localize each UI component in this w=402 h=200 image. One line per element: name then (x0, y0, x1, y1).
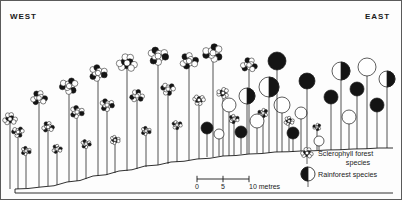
sclerophyll-crown-lobe (201, 98, 205, 102)
sclerophyll-tree (240, 58, 257, 154)
legend-label-sclerophyll: Sclerophyll forest (318, 149, 373, 158)
sclerophyll-crown-lobe (105, 103, 109, 107)
sclerophyll-crown-lobe (148, 130, 151, 133)
sclerophyll-crown-lobe (66, 83, 71, 88)
sclerophyll-tree (148, 47, 168, 165)
sclerophyll-tree (142, 126, 152, 167)
sclerophyll-crown-lobe (179, 124, 182, 127)
legend-label-sclerophyll-2: species (346, 158, 371, 167)
sclerophyll-crown-lobe (135, 94, 139, 98)
rainforest-crown-shaded-half (269, 77, 279, 97)
rainforest-crown (370, 98, 384, 112)
rainforest-crown (214, 129, 224, 139)
sclerophyll-crown-lobe (166, 87, 170, 91)
legend-label-rainforest: Rainforest species (318, 170, 378, 179)
rainforest-crown (295, 107, 307, 119)
rainforest-tree (235, 126, 247, 154)
rainforest-crown (250, 114, 264, 128)
sclerophyll-tree (42, 121, 55, 186)
sclerophyll-tree (172, 121, 182, 162)
sclerophyll-crown-lobe (20, 129, 24, 133)
rainforest-tree (201, 122, 213, 157)
sclerophyll-crown-lobe (8, 117, 12, 121)
scale-bar-label: 5 (221, 183, 225, 190)
sclerophyll-crown-lobe (192, 61, 198, 67)
rainforest-crown (350, 82, 364, 96)
sclerophyll-crown-lobe (247, 63, 252, 68)
sclerophyll-crown-lobe (49, 128, 53, 132)
sclerophyll-crown-lobe (88, 143, 91, 146)
sclerophyll-crown-lobe (56, 148, 59, 151)
sclerophyll-crown-lobe (288, 120, 291, 123)
vegetation-profile-diagram: 0510 metres Sclerophyll forestspeciesRai… (1, 1, 402, 200)
scale-bar-label: 0 (195, 183, 199, 190)
rainforest-tree (370, 98, 384, 148)
sclerophyll-crown-lobe (110, 103, 115, 108)
sclerophyll-crown-lobe (171, 86, 176, 91)
sclerophyll-crown-lobe (37, 96, 42, 101)
rainforest-crown-shaded-half (341, 62, 350, 80)
sclerophyll-crown-lobe (80, 111, 85, 116)
sclerophyll-tree (116, 54, 137, 171)
sclerophyll-crown-lobe (316, 126, 318, 128)
sclerophyll-tree (217, 87, 229, 156)
sclerophyll-crown-lobe (264, 109, 267, 112)
sclerophyll-tree (90, 65, 107, 176)
sclerophyll-crown-lobe (215, 46, 222, 53)
rainforest-crown (358, 58, 376, 76)
rainforest-tree (314, 136, 324, 150)
sclerophyll-crown-lobe (155, 53, 161, 59)
sclerophyll-crown-lobe (236, 118, 239, 121)
sclerophyll-crown-lobe (128, 65, 135, 72)
rainforest-crown (201, 122, 213, 134)
sclerophyll-crown-lobe (72, 80, 78, 86)
sclerophyll-crown-lobe (233, 118, 236, 121)
rainforest-crown (235, 126, 247, 138)
sclerophyll-crown-lobe (25, 150, 28, 153)
sclerophyll-crown-lobe (114, 139, 117, 142)
sclerophyll-tree (111, 135, 121, 173)
sclerophyll-tree (81, 140, 91, 179)
rainforest-crown (314, 136, 324, 146)
sclerophyll-tree (12, 127, 25, 189)
sclerophyll-crown-lobe (75, 110, 79, 114)
sclerophyll-tree (59, 78, 77, 182)
sclerophyll-crown-lobe (176, 124, 179, 127)
sclerophyll-tree (3, 113, 18, 189)
rainforest-crown (342, 110, 356, 124)
rainforest-crown (324, 90, 338, 104)
sclerophyll-tree (31, 91, 48, 187)
sclerophyll-crown-lobe (186, 58, 191, 63)
sclerophyll-tree (52, 144, 62, 185)
sclerophyll-crown-lobe (101, 72, 107, 78)
sclerophyll-crown-lobe (224, 89, 228, 93)
sclerophyll-crown-lobe (162, 54, 169, 61)
rainforest-crown (222, 98, 236, 112)
sclerophyll-crown-lobe (58, 149, 61, 152)
sclerophyll-crown-lobe (221, 91, 225, 95)
sclerophyll-crown-lobe (41, 99, 46, 104)
sclerophyll-tree (180, 53, 198, 160)
sclerophyll-crown-lobe (16, 130, 20, 134)
sclerophyll-crown-lobe (197, 98, 201, 102)
sclerophyll-tree (22, 146, 32, 188)
forest-profile-figure: WEST EAST 0510 metres Sclerophyll forest… (0, 0, 402, 200)
sclerophyll-crown-lobe (262, 112, 265, 115)
sclerophyll-crown-lobe (11, 120, 16, 125)
rainforest-tree (214, 129, 224, 156)
sclerophyll-crown-lobe (124, 60, 130, 66)
rainforest-tree (324, 90, 338, 150)
rainforest-tree (250, 114, 264, 153)
legend-sclerophyll-icon (305, 151, 309, 155)
sclerophyll-crown-lobe (145, 130, 148, 133)
sclerophyll-crown-lobe (117, 139, 120, 142)
sclerophyll-crown-lobe (138, 97, 143, 102)
scale-bar-label: 10 metres (249, 183, 281, 190)
sclerophyll-crown-lobe (318, 124, 321, 127)
rainforest-crown (299, 73, 315, 89)
sclerophyll-crown-lobe (46, 125, 50, 129)
sclerophyll-crown-lobe (290, 121, 293, 124)
rainforest-crown (287, 127, 299, 139)
rainforest-tree (332, 62, 350, 150)
rainforest-crown-shaded-half (247, 88, 255, 104)
